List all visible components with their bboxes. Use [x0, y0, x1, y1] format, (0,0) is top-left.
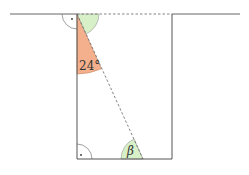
right-angle-arc-bottom — [77, 144, 92, 159]
right-angle-arc-top — [62, 14, 77, 29]
right-angle-dot-top — [71, 18, 73, 20]
geometry-diagram: 24° β — [0, 0, 249, 175]
right-angle-dot-bottom — [80, 154, 82, 156]
beta-label: β — [126, 144, 134, 158]
diagonal-dashed — [77, 14, 143, 159]
angle-24-label: 24° — [79, 59, 100, 73]
